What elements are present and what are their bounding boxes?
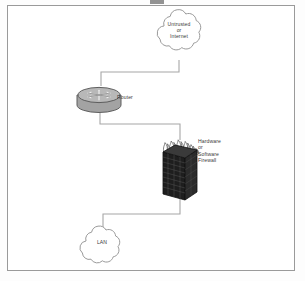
lan-cloud-label: LAN [73, 239, 131, 245]
connector-internet-to-router [101, 60, 179, 86]
connector-router-to-firewall [100, 113, 180, 140]
internet-cloud-label-line3: Internet [148, 33, 210, 39]
firewall-icon [163, 140, 199, 200]
router-label: Router [117, 94, 133, 100]
firewall-label: Hardware or Software Firewall [198, 138, 221, 164]
router-icon [77, 87, 121, 112]
firewall-label-line4: Firewall [198, 157, 221, 163]
node-internet-cloud[interactable]: Untrusted or Internet [148, 8, 210, 60]
node-lan-cloud[interactable]: LAN [73, 222, 131, 266]
diagram-page: Untrusted or Internet Router Hardware or… [0, 0, 305, 281]
